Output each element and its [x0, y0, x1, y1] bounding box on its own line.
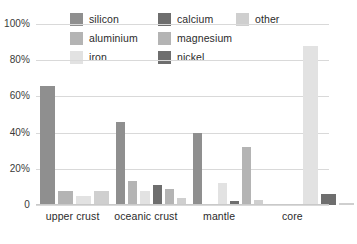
bar-aluminium: [58, 191, 73, 205]
x-axis-labels: upper crustoceanic crustmantlecore: [36, 209, 329, 233]
x-axis-line: [36, 204, 329, 205]
bar-silicon: [116, 122, 125, 205]
bar-other: [94, 191, 109, 205]
plot-area: [36, 24, 329, 205]
bar-magnesium: [242, 147, 251, 205]
y-axis-labels: 020%40%60%80%100%: [0, 16, 34, 216]
bar-group: [267, 24, 357, 205]
x-tick-label: mantle: [183, 209, 256, 233]
y-tick-label: 100%: [4, 19, 30, 29]
x-tick-label: upper crust: [36, 209, 109, 233]
gridline: [36, 205, 329, 206]
bar-aluminium: [128, 181, 137, 205]
bar-other: [339, 203, 354, 205]
x-tick-label: oceanic crust: [109, 209, 182, 233]
y-tick-label: 40%: [10, 128, 30, 138]
bar-group: [36, 24, 112, 205]
bar-iron: [218, 183, 227, 205]
bar-groups: [36, 24, 329, 205]
bar-calcium: [153, 185, 162, 205]
y-tick-label: 0: [24, 200, 30, 210]
bar-group: [112, 24, 189, 205]
bar-silicon: [40, 86, 55, 205]
x-tick-label: core: [256, 209, 329, 233]
y-tick-label: 80%: [10, 55, 30, 65]
bar-silicon: [193, 133, 202, 205]
y-tick-label: 20%: [10, 164, 30, 174]
bar-iron: [303, 46, 318, 205]
bar-group: [189, 24, 266, 205]
y-tick-label: 60%: [10, 91, 30, 101]
bar-iron: [140, 191, 149, 205]
bar-magnesium: [165, 189, 174, 205]
